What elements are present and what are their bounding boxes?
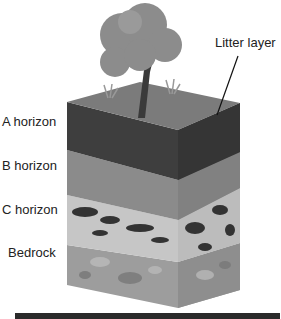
bottom-divider-bar xyxy=(15,313,280,319)
label-a-horizon: A horizon xyxy=(2,115,56,128)
label-bedrock: Bedrock xyxy=(8,246,56,259)
label-b-horizon: B horizon xyxy=(2,159,57,172)
label-c-horizon: C horizon xyxy=(2,203,58,216)
label-litter-layer: Litter layer xyxy=(215,36,276,49)
